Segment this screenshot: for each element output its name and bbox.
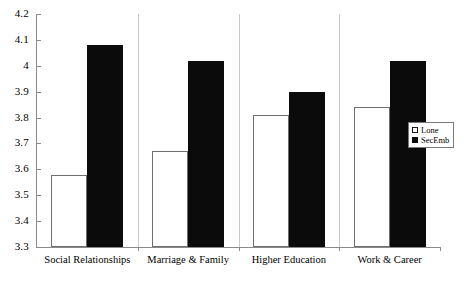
y-tick-mark xyxy=(37,143,41,144)
y-tick-label: 3.4 xyxy=(15,215,29,226)
bar-lone xyxy=(51,175,87,247)
y-tick-label: 4.2 xyxy=(15,8,29,19)
legend-swatch-lone-icon xyxy=(412,127,418,133)
bar-secemb xyxy=(390,61,426,247)
y-tick-mark xyxy=(37,40,41,41)
y-tick-label: 3.3 xyxy=(15,241,29,252)
y-tick-label: 3.8 xyxy=(15,112,29,123)
legend-label-secemb: SecEmb xyxy=(421,136,449,145)
group-separator xyxy=(239,14,240,247)
legend-item-lone[interactable]: Lone xyxy=(412,125,449,135)
y-axis: 4.24.143.93.83.73.63.53.43.3 xyxy=(0,0,34,284)
x-axis: Social RelationshipsMarriage & FamilyHig… xyxy=(37,253,440,273)
bar-lone xyxy=(354,107,390,247)
x-category-label: Work & Career xyxy=(339,253,440,266)
y-tick-label: 3.7 xyxy=(15,137,29,148)
bar-chart: 4.24.143.93.83.73.63.53.43.3 Social Rela… xyxy=(0,0,471,284)
y-tick-label: 3.6 xyxy=(15,163,29,174)
plot-area xyxy=(37,14,440,247)
legend-label-lone: Lone xyxy=(421,126,438,135)
y-tick-mark xyxy=(37,221,41,222)
bar-secemb xyxy=(188,61,224,247)
x-tick-mark xyxy=(339,247,340,251)
y-tick-label: 3.5 xyxy=(15,189,29,200)
y-tick-mark xyxy=(37,92,41,93)
x-category-label: Marriage & Family xyxy=(138,253,239,266)
y-tick-label: 4 xyxy=(23,60,29,71)
bar-secemb xyxy=(87,45,123,247)
x-category-label: Social Relationships xyxy=(37,253,138,266)
y-tick-label: 4.1 xyxy=(15,34,29,45)
legend-swatch-secemb-icon xyxy=(412,137,418,143)
x-category-label: Higher Education xyxy=(239,253,340,266)
legend-item-secemb[interactable]: SecEmb xyxy=(412,135,449,145)
bar-secemb xyxy=(289,92,325,247)
bar-lone xyxy=(253,115,289,247)
x-tick-mark xyxy=(138,247,139,251)
x-tick-mark xyxy=(440,247,441,251)
y-tick-mark xyxy=(37,169,41,170)
x-tick-mark xyxy=(239,247,240,251)
bar-lone xyxy=(152,151,188,247)
group-separator xyxy=(339,14,340,247)
y-tick-mark xyxy=(37,247,41,248)
y-tick-label: 3.9 xyxy=(15,86,29,97)
y-tick-mark xyxy=(37,195,41,196)
chart-legend: Lone SecEmb xyxy=(408,122,454,148)
y-tick-mark xyxy=(37,66,41,67)
y-tick-mark xyxy=(37,14,41,15)
group-separator xyxy=(138,14,139,247)
y-tick-mark xyxy=(37,118,41,119)
